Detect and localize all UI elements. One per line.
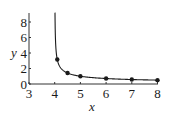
x-tick-label: 4 [51,86,58,101]
y-tick-label: 4 [21,46,28,61]
data-point [55,57,59,61]
data-points [55,57,160,82]
y-tick-label: 0 [21,77,28,92]
data-point [104,76,108,80]
y-axis-label: y [9,45,17,60]
x-tick-label: 7 [129,86,136,101]
function-curve [55,13,158,80]
x-tick-label: 5 [77,86,84,101]
tick-labels: 34567802468 [21,15,161,102]
x-axis-label: x [88,99,95,114]
data-point [78,74,82,78]
chart-canvas: 34567802468 y x [0,0,171,118]
y-tick-label: 8 [21,15,28,30]
x-tick-label: 6 [103,86,110,101]
y-tick-label: 6 [21,30,28,45]
data-point [130,77,134,81]
x-tick-label: 8 [154,86,161,101]
data-point [155,78,159,82]
axis-ticks [29,22,158,84]
y-tick-label: 2 [21,61,28,76]
data-point [65,71,69,75]
